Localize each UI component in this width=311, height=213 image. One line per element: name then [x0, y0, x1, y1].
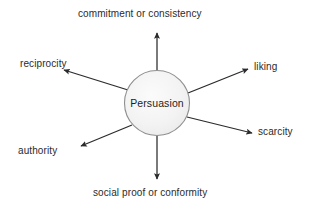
spoke-arrow-reciprocity	[64, 70, 128, 90]
spoke-arrow-scarcity	[187, 117, 252, 133]
node-label-social-proof: social proof or conformity	[93, 187, 207, 199]
spoke-arrow-authority	[81, 125, 132, 146]
node-label-liking: liking	[254, 61, 277, 73]
spoke-arrow-liking	[188, 69, 248, 93]
hub-label: Persuasion	[124, 97, 190, 109]
node-label-reciprocity: reciprocity	[20, 58, 67, 70]
node-label-authority: authority	[18, 145, 57, 157]
persuasion-radial-diagram: Persuasion commitment or consistency lik…	[0, 0, 311, 213]
node-label-commitment: commitment or consistency	[78, 8, 202, 20]
node-label-scarcity: scarcity	[258, 126, 293, 138]
